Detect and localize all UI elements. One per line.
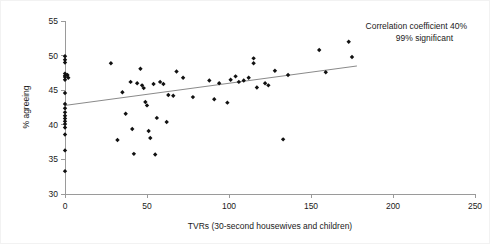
data-point xyxy=(286,73,290,77)
data-point xyxy=(63,169,67,173)
data-point xyxy=(155,116,159,120)
y-tick-label: 45 xyxy=(49,85,59,95)
data-point xyxy=(317,48,321,52)
data-point xyxy=(153,152,157,156)
data-point xyxy=(128,80,132,84)
y-tick-labels: 303540455055 xyxy=(49,16,59,199)
data-point xyxy=(242,78,246,82)
y-tick-label: 50 xyxy=(49,51,59,61)
data-point xyxy=(251,61,255,65)
data-point xyxy=(130,127,134,131)
data-point xyxy=(158,80,162,84)
correlation-annotation: Correlation coefficient 40% xyxy=(366,21,468,31)
data-point xyxy=(148,136,152,140)
data-point xyxy=(146,129,150,133)
data-point xyxy=(255,85,259,89)
data-point xyxy=(166,93,170,97)
data-point xyxy=(135,81,139,85)
trend-line xyxy=(65,66,357,105)
data-point xyxy=(151,82,155,86)
data-point xyxy=(120,90,124,94)
x-tick-label: 50 xyxy=(142,201,152,211)
y-tick-label: 55 xyxy=(49,16,59,26)
y-tick-label: 40 xyxy=(49,120,59,130)
data-point xyxy=(123,112,127,116)
data-point xyxy=(281,137,285,141)
chart-figure: 303540455055 050100150200250 % agreeing … xyxy=(0,0,490,244)
data-point xyxy=(63,148,67,152)
data-point xyxy=(63,60,67,64)
data-point xyxy=(233,74,237,78)
data-point xyxy=(212,97,216,101)
data-point xyxy=(273,69,277,73)
data-point xyxy=(63,91,67,95)
data-point xyxy=(138,67,142,71)
data-point xyxy=(263,81,267,85)
y-axis-title: % agreeing xyxy=(21,85,31,128)
data-point xyxy=(171,94,175,98)
data-point xyxy=(132,152,136,156)
scatter-plot: 303540455055 050100150200250 % agreeing … xyxy=(1,1,490,244)
data-point xyxy=(63,106,67,110)
y-tick-label: 35 xyxy=(49,154,59,164)
data-point xyxy=(207,78,211,82)
data-point xyxy=(225,100,229,104)
x-tick-label: 250 xyxy=(468,201,482,211)
x-tick-label: 0 xyxy=(63,201,68,211)
x-tick-labels: 050100150200250 xyxy=(63,201,483,211)
x-tick-label: 100 xyxy=(222,201,236,211)
data-point xyxy=(191,95,195,99)
data-point xyxy=(266,83,270,87)
data-point xyxy=(63,78,67,82)
data-point xyxy=(109,61,113,65)
data-point xyxy=(251,56,255,60)
data-point xyxy=(164,120,168,124)
trend-line-segment xyxy=(65,66,357,105)
data-point xyxy=(228,78,232,82)
significance-annotation: 99% significant xyxy=(396,33,454,43)
data-point xyxy=(115,138,119,142)
y-tick-label: 30 xyxy=(49,189,59,199)
tick-marks xyxy=(61,21,475,198)
x-tick-label: 150 xyxy=(304,201,318,211)
data-point xyxy=(161,82,165,86)
x-axis-title: TVRs (30-second housewives and children) xyxy=(188,221,353,231)
data-point xyxy=(63,132,67,136)
data-point xyxy=(237,80,241,84)
data-point xyxy=(347,40,351,44)
x-tick-label: 200 xyxy=(386,201,400,211)
data-point xyxy=(350,55,354,59)
data-point xyxy=(63,125,67,129)
data-points xyxy=(63,40,354,174)
data-point xyxy=(246,76,250,80)
axes xyxy=(65,21,475,194)
data-point xyxy=(174,69,178,73)
data-point xyxy=(181,76,185,80)
